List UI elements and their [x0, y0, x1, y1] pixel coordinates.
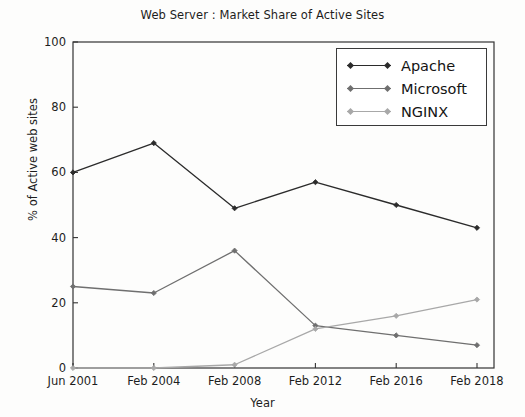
data-point-nginx: [70, 365, 75, 370]
y-tick-label: 60: [18, 165, 66, 179]
data-point-microsoft: [151, 290, 156, 295]
chart-legend[interactable]: ApacheMicrosoftNGINX: [336, 48, 487, 126]
data-point-nginx: [313, 326, 318, 331]
y-tick-label: 0: [18, 361, 66, 375]
legend-swatch-icon: [345, 82, 393, 96]
series-line-microsoft: [73, 251, 477, 346]
data-point-apache: [70, 170, 75, 175]
series-line-nginx: [73, 300, 477, 368]
legend-item-apache[interactable]: Apache: [345, 54, 455, 78]
x-tick-label: Feb 2008: [208, 374, 261, 388]
data-point-nginx: [151, 365, 156, 370]
series-line-apache: [73, 143, 477, 228]
data-point-apache: [313, 180, 318, 185]
data-point-microsoft: [394, 333, 399, 338]
data-point-apache: [474, 225, 479, 230]
legend-swatch-icon: [345, 59, 393, 73]
x-axis-label: Year: [250, 396, 274, 410]
legend-item-nginx[interactable]: NGINX: [345, 100, 448, 124]
legend-swatch-icon: [345, 105, 393, 119]
x-axis-label-wrap: Year: [0, 392, 525, 411]
x-tick-label: Feb 2004: [127, 374, 180, 388]
data-point-nginx: [394, 313, 399, 318]
x-tick-label: Feb 2016: [370, 374, 423, 388]
x-tick-label: Feb 2018: [450, 374, 503, 388]
data-point-nginx: [474, 297, 479, 302]
x-tick-label: Jun 2001: [48, 374, 99, 388]
legend-label: NGINX: [401, 105, 448, 120]
data-point-microsoft: [70, 284, 75, 289]
data-point-microsoft: [474, 343, 479, 348]
y-axis-label: % of Active web sites: [26, 98, 40, 221]
y-tick-label: 40: [18, 231, 66, 245]
legend-label: Microsoft: [401, 82, 467, 97]
data-point-nginx: [232, 362, 237, 367]
legend-item-microsoft[interactable]: Microsoft: [345, 77, 467, 101]
x-tick-label: Feb 2012: [289, 374, 342, 388]
data-point-apache: [394, 202, 399, 207]
y-tick-label: 80: [18, 100, 66, 114]
y-tick-label: 20: [18, 296, 66, 310]
y-tick-label: 100: [18, 35, 66, 49]
legend-label: Apache: [401, 59, 455, 74]
chart-figure: Web Server : Market Share of Active Site…: [0, 0, 525, 417]
